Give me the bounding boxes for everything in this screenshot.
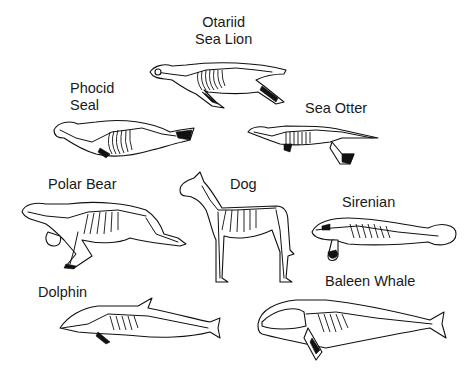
label-baleen-whale: Baleen Whale <box>325 273 415 290</box>
dog-skeleton-figure <box>176 170 301 285</box>
phocid-seal-skeleton-figure <box>52 118 197 162</box>
label-sirenian: Sirenian <box>342 194 395 211</box>
label-sea-otter: Sea Otter <box>305 100 367 117</box>
label-line-2: Seal <box>70 97 114 114</box>
dolphin-skeleton-figure <box>58 294 223 346</box>
label-line-1: Otariid <box>195 14 252 31</box>
label-line-1: Phocid <box>70 80 114 97</box>
baleen-whale-skeleton-figure <box>256 294 451 364</box>
label-polar-bear: Polar Bear <box>48 176 117 193</box>
polar-bear-skeleton-figure <box>18 198 188 270</box>
marine-mammal-skeleton-diagram: Otariid Sea Lion Phocid Seal Sea Otter <box>0 0 471 374</box>
label-phocid-seal: Phocid Seal <box>70 80 114 114</box>
sirenian-skeleton-figure <box>308 214 458 276</box>
label-line-2: Sea Lion <box>195 31 252 48</box>
otariid-sea-lion-skeleton-figure <box>146 58 306 110</box>
label-otariid-sea-lion: Otariid Sea Lion <box>195 14 252 48</box>
sea-otter-skeleton-figure <box>246 124 381 168</box>
